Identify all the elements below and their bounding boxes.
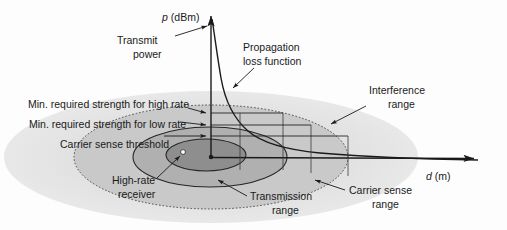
high-rate-receiver-line2: receiver — [118, 188, 156, 200]
transmit-power-line1: Transmit — [117, 34, 158, 46]
carrier-sense-range-line2: range — [372, 198, 399, 210]
x-axis-symbol: d — [426, 170, 433, 182]
high-rate-receiver-line1: High-rate — [112, 174, 155, 186]
propagation-loss-leader — [233, 68, 254, 88]
transmission-range-line1: Transmission — [250, 190, 312, 202]
carrier-sense-range-line1: Carrier sense — [349, 184, 412, 196]
y-axis-unit: (dBm) — [171, 11, 200, 23]
high-rate-range-ellipse — [166, 139, 246, 171]
origin-point — [209, 155, 213, 159]
y-axis-label: p(dBm) — [161, 11, 199, 23]
x-axis-label: d(m) — [426, 170, 451, 182]
x-axis-unit: (m) — [435, 170, 451, 182]
transmission-range-line2: range — [272, 204, 299, 216]
transmit-power-line2: power — [133, 48, 162, 60]
transmit-power-leader — [175, 26, 207, 36]
min-strength-low-rate-label: Min. required strength for low rate — [29, 118, 186, 130]
propagation-loss-line1: Propagation — [243, 41, 300, 53]
interference-range-line1: Interference — [369, 84, 425, 96]
propagation-loss-label: Propagation loss function — [243, 41, 303, 67]
interference-range-label: Interference range — [369, 84, 428, 110]
propagation-loss-line2: loss function — [243, 55, 302, 67]
propagation-loss-diagram: p(dBm) d(m) Transmit power Propagation l… — [0, 0, 507, 230]
min-strength-high-rate-label: Min. required strength for high rate — [28, 98, 189, 110]
carrier-sense-threshold-label: Carrier sense threshold — [60, 138, 169, 150]
transmit-power-label: Transmit power — [117, 34, 162, 60]
high-rate-receiver-dot — [181, 150, 186, 155]
interference-range-line2: range — [388, 98, 415, 110]
y-axis-symbol: p — [161, 11, 168, 23]
